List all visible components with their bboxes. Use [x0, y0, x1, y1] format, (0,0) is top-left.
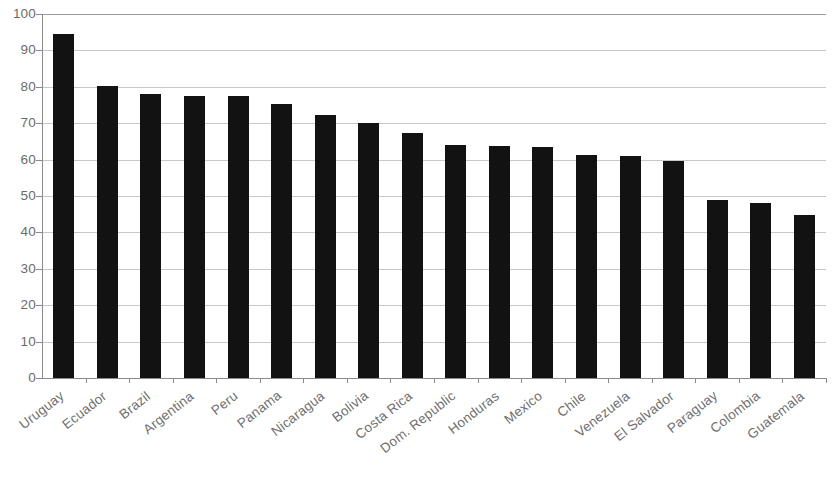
y-axis-tick-label-60: 60: [2, 153, 36, 167]
y-axis-tick-label-40: 40: [2, 225, 36, 239]
x-axis-tick-11: [565, 378, 566, 383]
y-axis-tick-label-70: 70: [2, 116, 36, 130]
y-axis-tick-label-100: 100: [2, 7, 36, 21]
x-axis-tick-4: [260, 378, 261, 383]
y-axis-tick-90: [36, 50, 43, 51]
x-axis-label-costa-rica: Costa Rica: [353, 389, 415, 442]
bar-brazil: [140, 94, 161, 378]
bar-el-salvador: [663, 161, 684, 378]
y-axis-tick-50: [36, 196, 43, 197]
y-axis-tick-label-10: 10: [2, 335, 36, 349]
bar-honduras: [489, 146, 510, 378]
y-axis-tick-20: [36, 305, 43, 306]
y-axis-tick-label-80: 80: [2, 80, 36, 94]
y-axis-tick-label-90: 90: [2, 43, 36, 57]
x-axis-label-colombia: Colombia: [708, 389, 763, 436]
y-axis-tick-10: [36, 342, 43, 343]
x-axis-label-panama: Panama: [235, 389, 284, 431]
x-axis-label-venezuela: Venezuela: [573, 389, 632, 440]
y-axis-tick-label-50: 50: [2, 189, 36, 203]
bar-uruguay: [53, 34, 74, 378]
x-axis-tick-9: [478, 378, 479, 383]
x-axis-tick-0: [86, 378, 87, 383]
x-axis-tick-10: [521, 378, 522, 383]
plot-area: [42, 14, 826, 378]
x-axis-label-el-salvador: El Salvador: [612, 389, 676, 444]
y-axis-tick-60: [36, 160, 43, 161]
x-axis-label-guatemala: Guatemala: [745, 389, 807, 441]
x-axis-tick-16: [782, 378, 783, 383]
y-axis-tick-label-0: 0: [2, 371, 36, 385]
gridline-90: [42, 50, 826, 51]
x-axis-tick-2: [173, 378, 174, 383]
x-axis-label-dom-republic: Dom. Republic: [378, 389, 458, 456]
y-axis-tick-label-20: 20: [2, 298, 36, 312]
y-axis-tick-80: [36, 87, 43, 88]
x-axis-tick-12: [608, 378, 609, 383]
y-axis-tick-100: [36, 14, 43, 15]
bar-argentina: [184, 96, 205, 378]
bar-paraguay: [707, 200, 728, 378]
x-axis-label-paraguay: Paraguay: [665, 389, 720, 436]
x-axis-label-mexico: Mexico: [502, 389, 545, 427]
bar-peru: [228, 96, 249, 378]
x-axis-tick-3: [216, 378, 217, 383]
y-axis-tick-0: [36, 378, 43, 379]
x-axis-label-brazil: Brazil: [117, 389, 153, 421]
x-axis-tick-1: [129, 378, 130, 383]
gridline-80: [42, 87, 826, 88]
y-axis-labels: 0102030405060708090100: [0, 0, 36, 483]
bar-bolivia: [358, 123, 379, 378]
bar-colombia: [750, 203, 771, 378]
x-axis-label-peru: Peru: [209, 389, 240, 418]
x-axis-tick-6: [347, 378, 348, 383]
x-axis-label-honduras: Honduras: [446, 389, 502, 437]
x-axis-label-bolivia: Bolivia: [330, 389, 371, 425]
x-axis-label-argentina: Argentina: [141, 389, 196, 436]
bar-panama: [271, 104, 292, 378]
bar-chart: 0102030405060708090100 UruguayEcuadorBra…: [0, 0, 833, 483]
gridline-100: [42, 14, 826, 15]
x-axis-tick-5: [303, 378, 304, 383]
x-axis-tick-14: [695, 378, 696, 383]
bar-costa-rica: [402, 133, 423, 378]
bar-venezuela: [620, 156, 641, 378]
bar-ecuador: [97, 86, 118, 378]
x-axis-label-ecuador: Ecuador: [60, 389, 109, 431]
x-axis-tick-8: [434, 378, 435, 383]
y-axis-tick-70: [36, 123, 43, 124]
bar-guatemala: [794, 215, 815, 378]
x-axis-label-chile: Chile: [555, 389, 588, 419]
bar-mexico: [532, 147, 553, 379]
x-axis-tick-17: [826, 378, 827, 383]
y-axis-tick-label-30: 30: [2, 262, 36, 276]
x-axis-label-nicaragua: Nicaragua: [269, 389, 327, 439]
x-axis-tick-15: [739, 378, 740, 383]
y-axis-tick-30: [36, 269, 43, 270]
x-axis-tick-7: [390, 378, 391, 383]
x-axis-tick-13: [652, 378, 653, 383]
bar-chile: [576, 155, 597, 378]
y-axis-tick-40: [36, 232, 43, 233]
bar-dom-republic: [445, 145, 466, 378]
bar-nicaragua: [315, 115, 336, 378]
